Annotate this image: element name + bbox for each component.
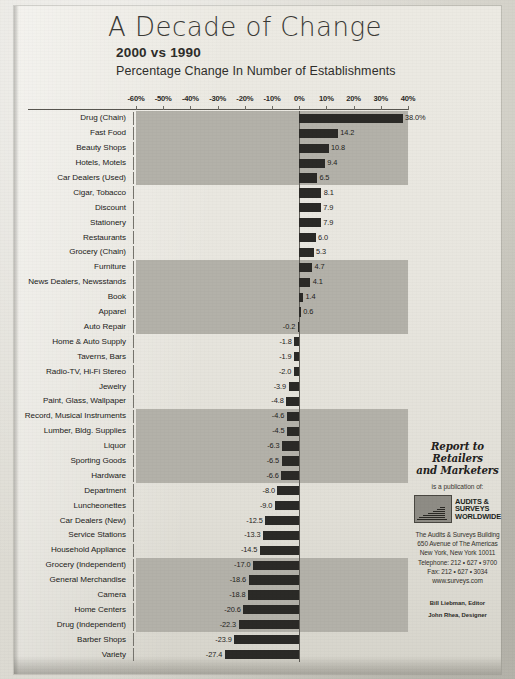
bar xyxy=(299,278,310,287)
category-tick-mark xyxy=(133,455,134,468)
bar xyxy=(294,367,299,376)
bar-chart: -60%-50%-40%-30%-20%-10%0%10%20%30%40% D… xyxy=(28,94,408,662)
bar-value-label: -1.8 xyxy=(279,338,291,346)
bar xyxy=(289,382,300,391)
x-axis-tick-mark xyxy=(190,106,191,110)
category-tick-mark xyxy=(133,335,134,348)
x-axis-tick-label: 40% xyxy=(401,94,416,103)
bar xyxy=(299,114,402,123)
chart-description: Percentage Change In Number of Establish… xyxy=(116,64,446,78)
category-label: Grocery (Independent) xyxy=(46,561,126,569)
category-label: Discount xyxy=(95,204,126,212)
bar-value-label: -13.3 xyxy=(244,531,260,539)
category-label: Car Dealers (Used) xyxy=(57,174,126,182)
category-label: Drug (Independent) xyxy=(57,621,126,629)
bar-value-label: -1.9 xyxy=(279,353,291,361)
bar xyxy=(294,352,299,361)
publisher-sidebar: Report to Retailers and Marketers is a p… xyxy=(406,440,509,619)
category-label: Auto Repair xyxy=(84,323,126,331)
bar-value-label: -20.6 xyxy=(224,606,240,614)
category-tick-mark xyxy=(133,157,134,170)
bar-value-label: -6.5 xyxy=(267,457,279,465)
x-axis-tick-label: -50% xyxy=(155,94,172,103)
category-tick-mark xyxy=(133,261,134,274)
category-label: Fast Food xyxy=(90,129,126,137)
category-label: Hotels, Motels xyxy=(75,159,126,167)
category-tick-mark xyxy=(133,603,134,616)
x-axis-tick-mark xyxy=(245,106,246,110)
address-line: New York, New York 10011 xyxy=(406,548,509,557)
category-label: Drug (Chain) xyxy=(80,114,126,122)
bar-value-label: 14.2 xyxy=(340,129,354,137)
bar xyxy=(260,546,299,555)
bar xyxy=(299,263,312,272)
category-label: Household Appliance xyxy=(51,546,126,554)
category-tick-mark xyxy=(133,246,134,259)
category-tick-mark xyxy=(133,291,134,304)
category-tick-mark xyxy=(133,320,134,333)
bar-value-label: -12.5 xyxy=(246,517,262,525)
category-tick-mark xyxy=(133,544,134,557)
category-label: Beauty Shops xyxy=(76,144,126,152)
bar xyxy=(299,129,338,138)
x-axis-tick-label: -40% xyxy=(182,94,199,103)
bar xyxy=(281,471,299,480)
address-line[interactable]: www.surveys.com xyxy=(406,576,509,585)
category-tick-mark xyxy=(133,559,134,572)
x-axis-tick-label: -60% xyxy=(128,94,145,103)
bar-value-label: -18.6 xyxy=(230,576,246,584)
bar-value-label: 5.3 xyxy=(316,248,326,256)
report-title: Report to Retailers and Marketers xyxy=(406,440,509,476)
category-label: Home Centers xyxy=(74,606,126,614)
category-label: Home & Auto Supply xyxy=(52,338,126,346)
category-label: Camera xyxy=(98,591,127,599)
x-axis-tick-label: 30% xyxy=(373,94,388,103)
bar-value-label: -23.9 xyxy=(215,636,231,644)
category-tick-mark xyxy=(133,276,134,289)
bar-value-label: -8.0 xyxy=(263,487,275,495)
category-label: Sporting Goods xyxy=(70,457,126,465)
category-tick-mark xyxy=(133,186,134,199)
bar-value-label: -2.0 xyxy=(279,368,291,376)
bar xyxy=(277,486,299,495)
bar-value-label: -14.5 xyxy=(241,546,257,554)
category-tick-mark xyxy=(133,484,134,497)
bar xyxy=(298,322,300,331)
category-label: Lumber, Bldg. Supplies xyxy=(44,427,126,435)
bar-value-label: 10.8 xyxy=(331,144,345,152)
address-line: Fax: 212 • 627 • 3034 xyxy=(406,567,509,576)
category-label: Jewelry xyxy=(99,383,126,391)
x-axis-tick-label: -30% xyxy=(209,94,226,103)
bar xyxy=(299,218,320,227)
bar xyxy=(286,397,299,406)
bar-value-label: 38.0% xyxy=(405,114,425,122)
publisher-name: AUDITS & SURVEYS WORLDWIDE xyxy=(455,498,501,521)
publisher-logo: AUDITS & SURVEYS WORLDWIDE xyxy=(406,495,509,523)
bar-value-label: -4.8 xyxy=(271,397,283,405)
category-tick-mark xyxy=(133,395,134,408)
bar-value-label: -0.2 xyxy=(283,323,295,331)
category-label: Department xyxy=(84,487,126,495)
bar xyxy=(299,307,301,316)
category-label: Cigar, Tobacco xyxy=(73,189,126,197)
category-tick-mark xyxy=(133,231,134,244)
category-label: Record, Musical Instruments xyxy=(25,412,126,420)
publisher-credits: Bill Liebman, EditorJohn Rhea, Designer xyxy=(406,599,509,619)
bar-value-label: -22.3 xyxy=(220,621,236,629)
credit-line: Bill Liebman, Editor xyxy=(406,599,509,607)
bar-value-label: -9.0 xyxy=(260,502,272,510)
category-tick-mark xyxy=(133,633,134,646)
bar-value-label: 7.9 xyxy=(323,219,333,227)
bar xyxy=(282,456,300,465)
bar xyxy=(263,531,299,540)
chart-plot-rows: Drug (Chain)Fast FoodBeauty ShopsHotels,… xyxy=(28,111,408,662)
category-label: Hardware xyxy=(91,472,126,480)
x-axis-tick-label: 20% xyxy=(346,94,361,103)
category-tick-mark xyxy=(133,350,134,363)
bar-value-label: 6.5 xyxy=(319,174,329,182)
x-axis-tick-label: -20% xyxy=(236,94,253,103)
bar xyxy=(299,203,320,212)
bar xyxy=(299,248,313,257)
bar-value-label: 4.7 xyxy=(314,263,324,271)
bar xyxy=(299,188,321,197)
